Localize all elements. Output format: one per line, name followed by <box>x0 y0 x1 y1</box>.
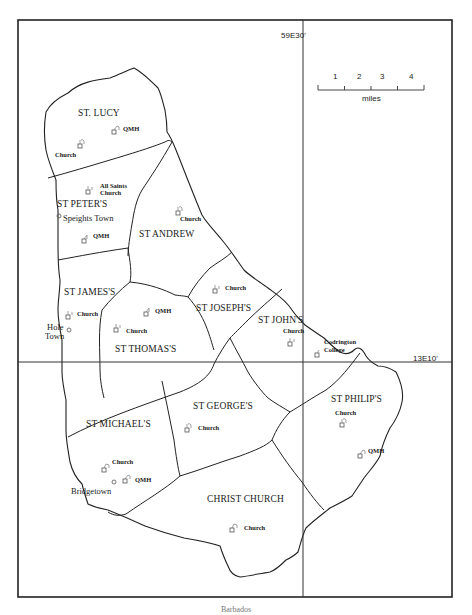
scale-unit: miles <box>362 95 381 103</box>
scale-tick-2: 2 <box>357 73 361 81</box>
codrington-label-line2: College <box>324 347 345 354</box>
st-lucy-qmh-label: QMH <box>123 126 139 133</box>
parish-st-james: ST JAMES'S <box>64 288 115 298</box>
christ-church-church-label: Church <box>244 525 265 532</box>
town-speightstown: Speights Town <box>63 214 114 223</box>
town-dot-icon <box>63 324 75 336</box>
church-icon <box>286 336 298 348</box>
st-thomas-qmh-label: QMH <box>155 308 171 315</box>
st-thomas-church-label: Church <box>126 328 147 335</box>
st-michael-church-label: Church <box>112 459 133 466</box>
st-philip-church-label: Church <box>335 410 356 417</box>
scale-tick-1: 1 <box>333 73 337 81</box>
longitude-label: 59E30' <box>281 32 306 40</box>
church-icon <box>211 283 223 295</box>
parish-st-johns: ST JOHN'S <box>258 316 303 326</box>
st-lucy-church-label: Church <box>55 152 76 159</box>
st-peters-qmh-label: QMH <box>93 233 109 240</box>
church-icon <box>84 184 96 196</box>
parish-st-philips: ST PHILIP'S <box>331 395 382 405</box>
codrington-label-line1: Codrington <box>324 339 356 346</box>
st-joseph-church-label: Church <box>225 285 246 292</box>
st-andrew-church-label: Church <box>180 216 201 223</box>
town-dot-icon <box>53 210 65 222</box>
qmh-icon <box>356 448 368 460</box>
st-george-church-label: Church <box>198 425 219 432</box>
church-icon <box>76 138 88 150</box>
scale-tick-3: 3 <box>380 73 384 81</box>
latitude-label: 13E10' <box>413 355 438 363</box>
church-icon <box>64 309 76 321</box>
town-dot-icon <box>108 476 120 488</box>
st-michael-qmh-label: QMH <box>135 477 151 484</box>
church-icon <box>112 322 124 334</box>
parish-st-georges: ST GEORGE'S <box>193 402 253 412</box>
town-bridgetown: Bridgetown <box>71 487 111 496</box>
qmh-icon <box>142 306 154 318</box>
st-james-church-label: Church <box>77 311 98 318</box>
parish-st-thomas: ST THOMAS'S <box>115 345 176 355</box>
parish-christ-church: CHRIST CHURCH <box>207 495 284 505</box>
parish-st-lucy: ST. LUCY <box>78 109 120 119</box>
parish-st-andrew: ST ANDREW <box>139 230 194 240</box>
parish-st-peters: ST PETER'S <box>57 200 107 210</box>
st-john-church-label: Church <box>283 328 304 335</box>
church-icon <box>183 422 195 434</box>
qmh-icon <box>110 124 122 136</box>
st-philip-qmh-label: QMH <box>368 448 384 455</box>
church-icon <box>228 522 240 534</box>
all-saints-label-line2: Church <box>100 190 121 197</box>
church-icon <box>100 462 112 474</box>
parish-st-josephs: ST JOSEPH'S <box>196 304 251 314</box>
town-holetown-line2: Town <box>45 332 64 341</box>
parish-st-michaels: ST MICHAEL'S <box>86 420 151 430</box>
qmh-icon <box>80 233 92 245</box>
church-icon <box>338 417 350 429</box>
scale-bar <box>318 85 424 90</box>
map-caption: Barbados <box>0 605 472 615</box>
qmh-icon <box>121 473 133 485</box>
scale-tick-4: 4 <box>409 73 413 81</box>
